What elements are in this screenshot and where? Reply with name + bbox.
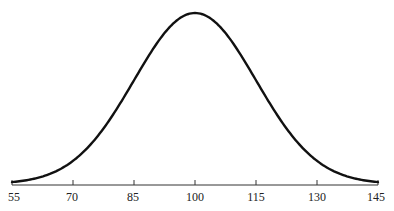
x-axis-labels: 55 70 85 100 115 130 145 [8, 190, 385, 204]
tick-label-130: 130 [308, 190, 326, 204]
tick-label-100: 100 [186, 190, 204, 204]
tick-label-85: 85 [127, 190, 139, 204]
normal-curve [12, 13, 378, 182]
tick-label-70: 70 [66, 190, 78, 204]
tick-label-145: 145 [367, 190, 385, 204]
x-axis-ticks [12, 180, 378, 185]
tick-label-55: 55 [8, 190, 20, 204]
bell-curve-chart: 55 70 85 100 115 130 145 [0, 0, 394, 211]
tick-label-115: 115 [247, 190, 265, 204]
